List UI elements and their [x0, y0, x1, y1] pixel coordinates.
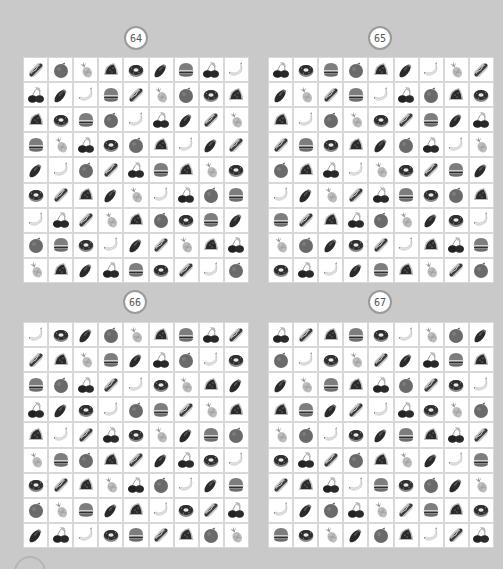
burger-icon	[396, 185, 416, 205]
burger-icon	[446, 350, 466, 370]
cherries-icon	[126, 475, 146, 495]
grid-cell	[470, 58, 493, 81]
hotdog-icon	[371, 350, 391, 370]
grid-cell	[124, 184, 147, 207]
hotdog-icon	[76, 210, 96, 230]
cherries-icon	[446, 235, 466, 255]
cherries-icon	[371, 185, 391, 205]
donut-icon	[176, 210, 196, 230]
grid-cell	[420, 133, 443, 156]
grid-cell	[470, 209, 493, 232]
grid-cell	[269, 184, 292, 207]
banana-icon	[346, 475, 366, 495]
burger-icon	[396, 425, 416, 445]
grid-cell	[124, 474, 147, 497]
eggplant-icon	[371, 425, 391, 445]
burger-icon	[321, 375, 341, 395]
grid-cell	[99, 474, 122, 497]
banana-icon	[101, 400, 121, 420]
hotdog-icon	[296, 210, 316, 230]
pineapple-icon	[296, 85, 316, 105]
hotdog-icon	[226, 325, 246, 345]
grid-cell	[175, 158, 198, 181]
banana-icon	[76, 525, 96, 545]
cherries-icon	[471, 110, 491, 130]
grid-cell	[99, 209, 122, 232]
banana-icon	[421, 525, 441, 545]
grid-cell	[99, 423, 122, 446]
cherries-icon	[321, 160, 341, 180]
donut-icon	[126, 60, 146, 80]
cherries-icon	[371, 375, 391, 395]
pineapple-icon	[296, 375, 316, 395]
pineapple-icon	[271, 425, 291, 445]
hotdog-icon	[101, 160, 121, 180]
watermelon-icon	[371, 60, 391, 80]
watermelon-icon	[346, 135, 366, 155]
grid-cell	[225, 423, 248, 446]
grid-cell	[344, 398, 367, 421]
eggplant-icon	[446, 110, 466, 130]
grid-cell	[49, 373, 72, 396]
grid-cell	[200, 323, 223, 346]
watermelon-icon	[226, 400, 246, 420]
grid-cell	[99, 524, 122, 547]
grid-cell	[369, 83, 392, 106]
orange-icon	[346, 450, 366, 470]
banana-icon	[76, 85, 96, 105]
hotdog-icon	[321, 85, 341, 105]
donut-icon	[151, 260, 171, 280]
cherries-icon	[51, 210, 71, 230]
grid-cell	[344, 474, 367, 497]
grid-cell	[319, 323, 342, 346]
donut-icon	[201, 450, 221, 470]
grid-cell	[445, 108, 468, 131]
grid-cell	[319, 373, 342, 396]
banana-icon	[151, 500, 171, 520]
donut-icon	[201, 85, 221, 105]
grid-cell	[344, 234, 367, 257]
grid-cell	[369, 474, 392, 497]
grid-cell	[319, 449, 342, 472]
grid-cell	[24, 58, 47, 81]
grid-cell	[49, 184, 72, 207]
pineapple-icon	[76, 350, 96, 370]
grid-cell	[294, 58, 317, 81]
hotdog-icon	[396, 500, 416, 520]
hotdog-icon	[446, 525, 466, 545]
puzzle-grid-67	[268, 322, 494, 548]
hotdog-icon	[51, 475, 71, 495]
grid-cell	[420, 524, 443, 547]
orange-icon	[226, 260, 246, 280]
grid-cell	[470, 373, 493, 396]
grid-cell	[369, 449, 392, 472]
grid-cell	[49, 398, 72, 421]
watermelon-icon	[421, 235, 441, 255]
burger-icon	[421, 110, 441, 130]
grid-cell	[175, 108, 198, 131]
cherries-icon	[26, 400, 46, 420]
grid-cell	[150, 83, 173, 106]
cherries-icon	[51, 525, 71, 545]
grid-cell	[445, 184, 468, 207]
grid-cell	[24, 108, 47, 131]
grid-cell	[74, 83, 97, 106]
pineapple-icon	[346, 350, 366, 370]
orange-icon	[26, 500, 46, 520]
grid-cell	[74, 348, 97, 371]
grid-cell	[49, 58, 72, 81]
donut-icon	[421, 185, 441, 205]
eggplant-icon	[471, 160, 491, 180]
grid-cell	[445, 234, 468, 257]
grid-cell	[150, 234, 173, 257]
grid-cell	[74, 108, 97, 131]
grid-cell	[369, 184, 392, 207]
eggplant-icon	[396, 60, 416, 80]
grid-cell	[344, 83, 367, 106]
donut-icon	[176, 500, 196, 520]
grid-cell	[24, 499, 47, 522]
grid-cell	[344, 209, 367, 232]
cherries-icon	[271, 60, 291, 80]
grid-cell	[49, 259, 72, 282]
grid-cell	[99, 348, 122, 371]
